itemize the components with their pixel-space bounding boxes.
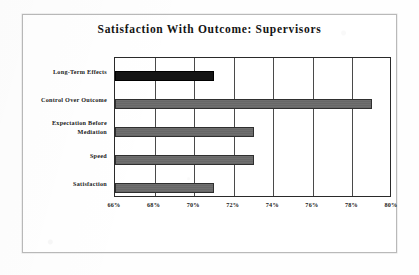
y-axis-label-line: Speed [23,151,107,160]
bar-band [115,114,390,142]
y-axis-category-labels: Long-Term EffectsControl Over OutcomeExp… [23,57,111,197]
x-axis-tick-72pct: 72% [226,201,239,208]
y-axis-label-long-term-effects: Long-Term Effects [23,67,107,76]
bar-long-term-effects[interactable] [115,71,214,81]
chart-page: Satisfaction With Outcome: Supervisors L… [0,0,419,275]
x-axis-tick-80pct: 80% [385,201,398,208]
x-axis-tick-68pct: 68% [147,201,160,208]
plot-area [114,57,391,197]
y-axis-label-satisfaction: Satisfaction [23,179,107,188]
y-axis-label-line: Satisfaction [23,179,107,188]
y-axis-label-control-over-outcome: Control Over Outcome [23,95,107,104]
bar-expectation-before-mediation[interactable] [115,127,254,137]
x-axis-tick-74pct: 74% [266,201,279,208]
bars-layer [115,58,390,196]
bar-satisfaction[interactable] [115,183,214,193]
x-axis-tick-78pct: 78% [345,201,358,208]
y-axis-label-line: Control Over Outcome [23,95,107,104]
bar-band [115,58,390,86]
bar-band [115,86,390,114]
y-axis-label-line: Long-Term Effects [23,67,107,76]
x-axis-tick-labels: 66%68%70%72%74%76%78%80% [114,201,391,215]
chart-frame: Satisfaction With Outcome: Supervisors L… [22,14,397,253]
y-axis-label-line: Expectation Before [23,118,107,127]
bar-band [115,170,390,198]
x-axis-tick-66pct: 66% [108,201,121,208]
bar-control-over-outcome[interactable] [115,99,372,109]
x-axis-tick-70pct: 70% [187,201,200,208]
x-axis-tick-76pct: 76% [305,201,318,208]
bar-band [115,142,390,170]
chart-title: Satisfaction With Outcome: Supervisors [23,23,396,35]
y-axis-label-expectation-before-mediation: Expectation BeforeMediation [23,118,107,136]
bar-speed[interactable] [115,155,254,165]
y-axis-label-speed: Speed [23,151,107,160]
y-axis-label-line: Mediation [23,127,107,136]
